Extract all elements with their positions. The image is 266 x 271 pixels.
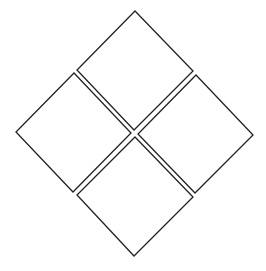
hazard-diamond xyxy=(0,0,266,271)
